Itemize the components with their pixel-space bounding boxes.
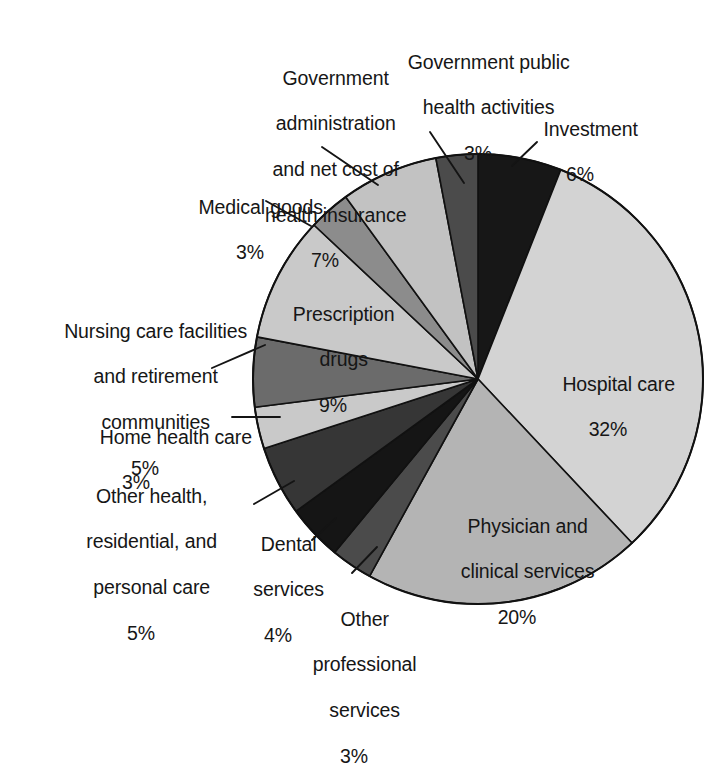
slice-label-line: Prescription <box>293 303 395 325</box>
slice-label-line: drugs <box>320 348 368 370</box>
slice-percent: 6% <box>500 163 660 186</box>
slice-label-line: professional <box>313 653 417 675</box>
slice-label-line: Home health care <box>100 426 252 448</box>
slice-label-prescription-drugs: Prescription drugs 9% <box>268 280 398 463</box>
slice-percent: 3% <box>288 745 420 767</box>
slice-label-line: Investment <box>543 118 637 140</box>
slice-label-line: Government <box>282 67 388 89</box>
slice-percent: 9% <box>268 394 398 417</box>
slice-percent: 32% <box>528 418 688 441</box>
slice-label-line: services <box>329 699 400 721</box>
slice-label-line: Hospital care <box>562 373 675 395</box>
slice-percent: 3% <box>150 241 350 264</box>
slice-label-line: Physician and <box>468 515 588 537</box>
slice-label-other-professional: Other professional services 3% <box>288 585 420 767</box>
slice-percent: 20% <box>412 606 622 629</box>
slice-label-line: Other health, <box>96 485 207 507</box>
slice-label-investment: Investment 6% <box>500 95 660 232</box>
slice-label-line: Medical goods <box>198 196 322 218</box>
slice-label-line: administration <box>276 112 396 134</box>
slice-label-line: and retirement <box>93 365 217 387</box>
slice-label-line: personal care <box>93 576 210 598</box>
slice-label-hospital-care: Hospital care 32% <box>528 350 688 487</box>
slice-label-line: clinical services <box>461 560 595 582</box>
slice-label-line: residential, and <box>86 530 217 552</box>
slice-label-physician: Physician and clinical services 20% <box>412 492 622 675</box>
slice-label-line: Government public <box>408 51 570 73</box>
slice-label-line: Other <box>341 608 389 630</box>
slice-label-line: Nursing care facilities <box>64 320 247 342</box>
slice-label-line: Dental <box>261 533 317 555</box>
